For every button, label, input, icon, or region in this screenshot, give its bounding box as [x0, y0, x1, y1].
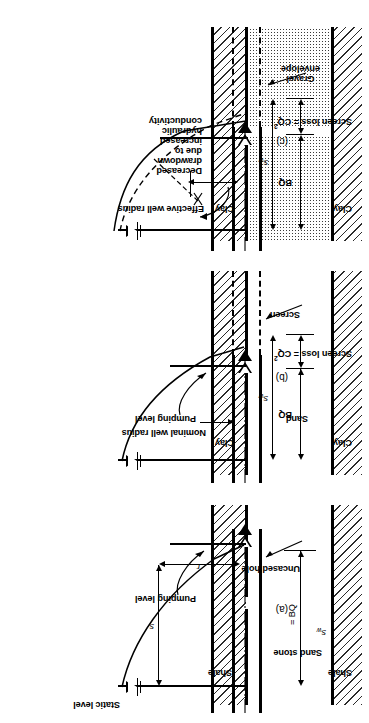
panel-a-sandstone-label: Sand stone — [273, 647, 322, 657]
panel-a-sw-arrow-left — [298, 680, 304, 686]
panel-a-r-arrow-down — [234, 562, 240, 568]
panel-b-bq-dimension-line — [300, 369, 301, 455]
panel-c-screenloss-arrow-right — [298, 99, 304, 105]
panel-b-sw-arrow-right — [270, 335, 276, 341]
panel-c-decreased-drawdown-leader — [150, 155, 206, 207]
panel-a-sw-dimension-line — [300, 551, 301, 681]
panel-c-screen-bottom — [259, 27, 261, 127]
panel-c-sw-dimension-line — [272, 101, 273, 225]
panel-b-bq-right-tick — [286, 368, 314, 369]
figure-canvas: Static level sw = BQ s r — [0, 0, 369, 723]
panel-c-bq-dimension-line — [300, 137, 301, 225]
panel-a-pumping-level-leader — [172, 541, 220, 597]
panel-b-casing-wall-bottom — [259, 355, 262, 483]
panel-b-screen-bottom — [259, 271, 261, 355]
panel-a-s-label: s — [150, 621, 155, 631]
panel-a-uncased-hole-leader — [262, 533, 306, 561]
panel-b-screenloss-arrow-right — [298, 335, 304, 341]
panel-b-nominal-radius-arrow — [228, 420, 234, 426]
panel-b-sw-label: sw — [259, 392, 268, 403]
panel-b-nominal-well-radius-label: Nominal well radius — [122, 427, 206, 437]
panel-c-bq-right-tick — [286, 134, 314, 135]
panel-b-screenloss-arrow-left — [298, 362, 304, 368]
panel-b-screenloss-right-tick — [286, 334, 314, 335]
panel-c-screen-loss-label: Screen loss = CQ2 — [274, 116, 352, 129]
panel-c-bq-arrow-right — [298, 135, 304, 141]
panel-a-s-arrow-left — [156, 680, 162, 686]
panel-c-lower-clay-label: Clay — [333, 203, 352, 213]
panel-c-gravel-envelope-leader — [262, 65, 310, 91]
panel-a-s-dimension-line — [158, 565, 159, 681]
panel-c-upper-clay-label: Clay — [215, 203, 234, 213]
panel-a-r-arrow-up — [159, 562, 165, 568]
panel-b-id: (b) — [276, 372, 288, 383]
panel-b-nominal-radius-leader — [200, 422, 230, 423]
panel-b-sw-dimension-line — [272, 337, 273, 455]
panel-b-screen-leader — [262, 297, 306, 323]
panel-b-bq-arrow-left — [298, 454, 304, 460]
panel-b-sand-label: Sand — [286, 413, 308, 423]
panel-a-bq-label: = BQ — [288, 604, 298, 625]
panel-c-id: (c) — [276, 136, 288, 147]
panel-c-bq-arrow-left — [298, 224, 304, 230]
panel-a-lower-shale-label: Shale — [328, 667, 352, 677]
panel-c-casing-wall-bottom — [259, 127, 262, 251]
panel-b-lower-clay-label: Clay — [333, 437, 352, 447]
panel-b-bq-arrow-right — [298, 369, 304, 375]
panel-c-bq-label: BQ — [278, 177, 292, 187]
panel-b-pumping-level-leader — [174, 363, 222, 417]
panel-a-id: (a) — [276, 604, 288, 615]
panel-a-sw-label: sw — [317, 626, 326, 637]
panel-a-uncased-hole-label: Uncased hole — [241, 563, 300, 573]
panel-c-sw-arrow-right — [270, 99, 276, 105]
panel-c-sw-arrow-left — [270, 224, 276, 230]
panel-c-screenloss-right-tick — [286, 98, 314, 99]
panel-c-sw-label: sw — [259, 156, 268, 167]
panel-b-upper-clay-label: Clay — [215, 437, 234, 447]
panel-a-upper-shale-label: Shale — [208, 667, 232, 677]
panel-a-static-level-label: Static level — [73, 699, 120, 709]
panel-b-sw-arrow-left — [270, 454, 276, 460]
panel-b-screen-loss-label: Screen loss = CQ2 — [274, 348, 352, 361]
